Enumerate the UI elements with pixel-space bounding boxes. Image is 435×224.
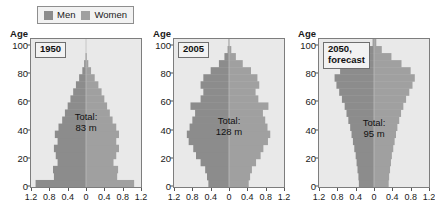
x-tick-mark-3 [374, 188, 375, 191]
x-tick-mark-3 [86, 188, 87, 191]
x-tick-mark-4 [392, 188, 393, 191]
plot-area-1950: 1950 Total: 83 m [30, 38, 142, 188]
bars-men [187, 39, 229, 187]
x-tick-mark-1 [337, 188, 338, 191]
chart-legend: Men Women [37, 6, 134, 24]
legend-entry-women: Women [81, 10, 127, 20]
y-axis-title: Age [298, 28, 316, 39]
cropped-caption-text [0, 215, 435, 224]
x-tick-mark-1 [192, 188, 193, 191]
x-tick-label-5: 0.8 [259, 192, 272, 202]
plot-area-2005: 2005 Total: 128 m [173, 38, 285, 188]
x-tick-mark-6 [141, 188, 142, 191]
panel-2050: Age 020406080100 2050, forecast Total: 9… [288, 28, 433, 213]
y-axis-2050: Age 020406080100 [288, 28, 318, 188]
legend-entry-men: Men [44, 10, 75, 20]
x-tick-mark-5 [266, 188, 267, 191]
y-tick-label-100: 100 [300, 40, 316, 51]
x-tick-label-3: 0 [83, 192, 88, 202]
x-tick-label-5: 0.8 [404, 192, 417, 202]
total-annotation-2005: Total: 128 m [174, 115, 284, 138]
y-axis-2005: Age 020406080100 [143, 28, 173, 188]
x-tick-mark-3 [229, 188, 230, 191]
legend-swatch-women-icon [81, 11, 90, 20]
x-tick-label-6: 1.2 [423, 192, 435, 202]
x-tick-mark-0 [174, 188, 175, 191]
x-tick-label-4: 0.4 [241, 192, 254, 202]
x-tick-label-3: 0 [371, 192, 376, 202]
x-tick-label-2: 0.4 [61, 192, 74, 202]
legend-label-men: Men [57, 10, 75, 20]
legend-swatch-men-icon [44, 11, 53, 20]
y-tick-label-100: 100 [12, 40, 28, 51]
x-tick-label-2: 0.4 [204, 192, 217, 202]
x-tick-mark-2 [356, 188, 357, 191]
x-tick-label-0: 1.2 [168, 192, 181, 202]
x-tick-mark-2 [211, 188, 212, 191]
x-tick-label-1: 0.8 [43, 192, 56, 202]
x-tick-label-5: 0.8 [116, 192, 129, 202]
x-tick-mark-1 [49, 188, 50, 191]
bars-women [229, 39, 270, 187]
y-axis-title: Age [10, 28, 28, 39]
bars-women [374, 39, 415, 187]
total-annotation-1950: Total: 83 m [31, 111, 141, 134]
legend-label-women: Women [94, 10, 127, 20]
x-tick-mark-0 [319, 188, 320, 191]
plot-area-2050: 2050, forecast Total: 95 m [318, 38, 430, 188]
panel-2005: Age 020406080100 2005 Total: 128 m 1.20.… [143, 28, 288, 213]
x-axis-1950: 1.20.80.400.40.81.2 [30, 188, 142, 210]
x-tick-mark-5 [411, 188, 412, 191]
panel-title-2050: 2050, forecast [323, 42, 370, 69]
y-tick-label-100: 100 [155, 40, 171, 51]
x-tick-mark-0 [31, 188, 32, 191]
pyramid-svg-2005 [174, 39, 284, 187]
panel-title-1950: 1950 [35, 42, 66, 58]
x-tick-mark-5 [123, 188, 124, 191]
x-tick-label-0: 1.2 [313, 192, 326, 202]
panel-1950: Age 020406080100 1950 Total: 83 m 1.20.8… [0, 28, 145, 213]
x-tick-label-1: 0.8 [186, 192, 199, 202]
x-tick-label-3: 0 [226, 192, 231, 202]
x-axis-2050: 1.20.80.400.40.81.2 [318, 188, 430, 210]
x-axis-2005: 1.20.80.400.40.81.2 [173, 188, 285, 210]
x-tick-mark-4 [247, 188, 248, 191]
y-axis-1950: Age 020406080100 [0, 28, 30, 188]
x-tick-label-4: 0.4 [386, 192, 399, 202]
x-tick-mark-4 [104, 188, 105, 191]
x-tick-label-1: 0.8 [331, 192, 344, 202]
pyramid-panels: Age 020406080100 1950 Total: 83 m 1.20.8… [0, 28, 435, 213]
x-tick-mark-6 [284, 188, 285, 191]
x-tick-label-0: 1.2 [25, 192, 38, 202]
x-tick-label-2: 0.4 [349, 192, 362, 202]
total-annotation-2050: Total: 95 m [319, 117, 429, 140]
x-tick-label-4: 0.4 [98, 192, 111, 202]
x-tick-mark-6 [429, 188, 430, 191]
panel-title-2005: 2005 [178, 42, 209, 58]
y-axis-title: Age [153, 28, 171, 39]
x-tick-mark-2 [68, 188, 69, 191]
